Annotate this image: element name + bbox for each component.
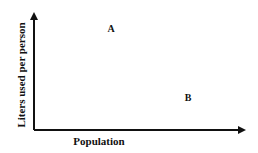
point-label-a: A xyxy=(107,23,115,34)
point-label-b: B xyxy=(185,92,192,103)
x-axis-label: Population xyxy=(73,135,124,147)
y-axis-label: Liters used per person xyxy=(15,22,27,127)
chart: Liters used per person Population A B xyxy=(0,0,258,153)
